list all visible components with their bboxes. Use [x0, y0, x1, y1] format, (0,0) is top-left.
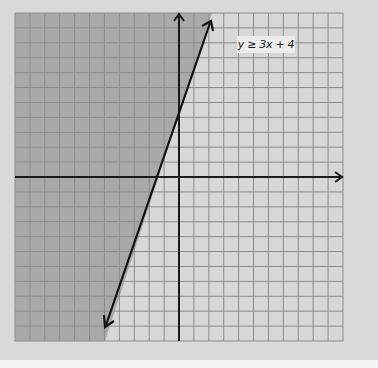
- bottom-strip: [0, 360, 378, 368]
- coordinate-plane: [0, 0, 378, 368]
- inequality-label: y ≥ 3x + 4: [237, 36, 295, 53]
